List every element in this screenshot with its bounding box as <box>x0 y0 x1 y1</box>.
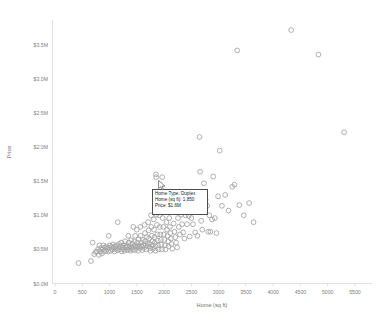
y-tick-label: $3.5M <box>34 42 48 48</box>
data-point[interactable] <box>289 28 294 33</box>
x-axis-title: Home (sq ft) <box>197 302 228 308</box>
x-tick-label: 1000 <box>104 289 116 295</box>
data-point[interactable] <box>211 174 216 179</box>
data-point[interactable] <box>251 220 256 225</box>
data-point[interactable] <box>220 203 225 208</box>
data-point[interactable] <box>191 222 196 227</box>
data-point[interactable] <box>180 222 185 227</box>
data-points-layer <box>76 28 346 266</box>
x-tick-label: 500 <box>78 289 87 295</box>
data-point[interactable] <box>185 222 190 227</box>
data-point[interactable] <box>149 225 154 230</box>
data-point[interactable] <box>126 233 131 238</box>
data-point[interactable] <box>342 130 347 135</box>
data-point[interactable] <box>247 201 252 206</box>
data-point[interactable] <box>187 234 192 239</box>
x-tick-label: 0 <box>54 289 57 295</box>
y-tick-label: $2.5M <box>34 110 48 116</box>
x-tick-label: 5000 <box>322 289 334 295</box>
data-point[interactable] <box>76 261 81 266</box>
data-point[interactable] <box>176 225 181 230</box>
y-axis-title: Price <box>6 146 12 159</box>
data-point[interactable] <box>115 220 120 225</box>
data-point[interactable] <box>170 246 175 251</box>
data-point[interactable] <box>175 245 180 250</box>
data-point[interactable] <box>241 213 246 218</box>
scatter-chart: $0.0M$0.5M$1.0M$1.5M$2.0M$2.5M$3.0M$3.5M… <box>0 0 390 335</box>
data-point[interactable] <box>235 48 240 53</box>
data-point[interactable] <box>167 216 172 221</box>
tooltip-price: Price: $1.6M <box>155 203 205 209</box>
data-point[interactable] <box>316 52 321 57</box>
y-tick-label: $3.0M <box>34 76 48 82</box>
data-point[interactable] <box>223 193 228 198</box>
y-tick-label: $1.0M <box>34 212 48 218</box>
data-point[interactable] <box>198 169 203 174</box>
data-point[interactable] <box>152 227 157 232</box>
x-tick-label: 1500 <box>131 289 143 295</box>
data-point[interactable] <box>197 135 202 140</box>
data-point[interactable] <box>146 220 151 225</box>
data-point[interactable] <box>216 194 221 199</box>
data-point[interactable] <box>160 216 165 221</box>
data-point[interactable] <box>173 235 178 240</box>
y-tick-label: $0.5M <box>34 246 48 252</box>
data-point[interactable] <box>199 218 204 223</box>
x-tick-label: 2500 <box>186 289 198 295</box>
chart-canvas: $0.0M$0.5M$1.0M$1.5M$2.0M$2.5M$3.0M$3.5M… <box>0 0 390 335</box>
x-tick-label: 4000 <box>267 289 279 295</box>
y-tick-labels: $0.0M$0.5M$1.0M$1.5M$2.0M$2.5M$3.0M$3.5M <box>34 42 48 287</box>
x-tick-label: 4500 <box>295 289 307 295</box>
data-point[interactable] <box>214 231 219 236</box>
data-point-tooltip: Home Type: Duplex Home (sq ft): 1,850 Pr… <box>152 189 208 215</box>
data-point[interactable] <box>90 240 95 245</box>
data-point[interactable] <box>151 217 156 222</box>
data-point[interactable] <box>89 259 94 264</box>
data-point[interactable] <box>160 175 165 180</box>
data-point[interactable] <box>106 233 111 238</box>
x-tick-label: 3500 <box>240 289 252 295</box>
x-tick-labels: 0500100015002000250030003500400045005000… <box>54 284 361 296</box>
data-point[interactable] <box>171 221 176 226</box>
data-point[interactable] <box>202 181 207 186</box>
data-point[interactable] <box>182 236 187 241</box>
y-tick-label: $0.0M <box>34 281 48 287</box>
data-point[interactable] <box>226 208 231 213</box>
data-point[interactable] <box>217 148 222 153</box>
data-point[interactable] <box>237 203 242 208</box>
y-tick-label: $2.0M <box>34 144 48 150</box>
x-tick-label: 5500 <box>349 289 361 295</box>
x-tick-label: 2000 <box>158 289 170 295</box>
y-tick-label: $1.5M <box>34 178 48 184</box>
data-point[interactable] <box>174 240 179 245</box>
x-tick-label: 3000 <box>213 289 225 295</box>
data-point[interactable] <box>200 227 205 232</box>
